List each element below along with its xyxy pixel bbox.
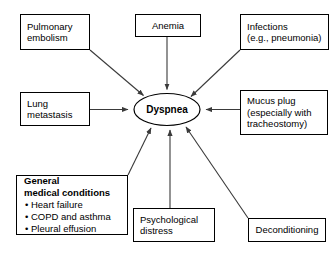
- node-general-heading-line-1: General: [24, 175, 120, 187]
- node-psychological-line-2: distress: [140, 225, 208, 237]
- node-anemia[interactable]: Anemia: [135, 14, 201, 37]
- node-mucus-plug-line-2: (especially with: [247, 107, 321, 119]
- node-infections-line-2: (e.g., pneumonia): [247, 32, 322, 44]
- node-general-bullet-1: • Heart failure: [24, 199, 120, 211]
- node-infections[interactable]: Infections (e.g., pneumonia): [240, 14, 329, 50]
- node-psychological-line-1: Psychological: [140, 214, 208, 226]
- node-general-heading-line-2: medical conditions: [24, 187, 120, 199]
- node-pulmonary-embolism-line-1: Pulmonary: [27, 21, 83, 33]
- edge-infections-to-dyspnea: [191, 50, 240, 97]
- node-infections-line-1: Infections: [247, 21, 322, 33]
- edge-deconditioning-to-dyspnea: [186, 127, 248, 218]
- node-mucus-plug[interactable]: Mucus plug (especially with tracheostomy…: [240, 90, 328, 135]
- node-psychological-distress[interactable]: Psychological distress: [133, 208, 215, 242]
- node-lung-metastasis-line-1: Lung: [27, 98, 83, 110]
- edge-general-conditions-to-dyspnea: [128, 128, 151, 175]
- dyspnea-label: Dyspnea: [132, 104, 202, 115]
- edge-pulmonary-embolism-to-dyspnea: [90, 50, 144, 96]
- node-general-bullet-3: • Pleural effusion: [24, 223, 120, 235]
- node-deconditioning-line-1: Deconditioning: [256, 224, 319, 236]
- node-lung-metastasis[interactable]: Lung metastasis: [20, 92, 90, 126]
- node-deconditioning[interactable]: Deconditioning: [248, 218, 326, 242]
- node-general-medical-conditions[interactable]: General medical conditions • Heart failu…: [16, 175, 128, 235]
- diagram-canvas: Dyspnea Pulmonary embolism Anemia Infect…: [0, 0, 336, 254]
- node-anemia-line-1: Anemia: [152, 20, 184, 32]
- node-general-bullet-2: • COPD and asthma: [24, 211, 120, 223]
- node-pulmonary-embolism[interactable]: Pulmonary embolism: [20, 14, 90, 50]
- node-mucus-plug-line-3: tracheostomy): [247, 118, 321, 130]
- node-pulmonary-embolism-line-2: embolism: [27, 32, 83, 44]
- node-lung-metastasis-line-2: metastasis: [27, 109, 83, 121]
- node-mucus-plug-line-1: Mucus plug: [247, 95, 321, 107]
